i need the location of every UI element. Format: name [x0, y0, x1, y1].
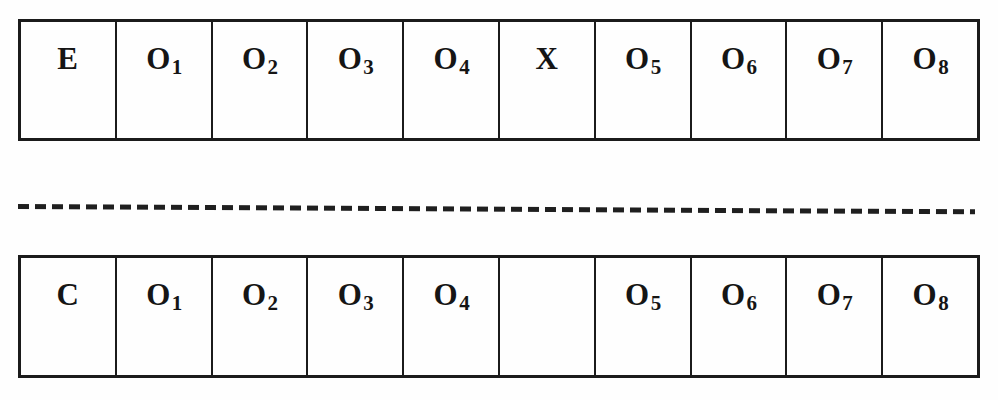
cell: C [21, 258, 117, 375]
cell: O8 [883, 258, 977, 375]
cell-label-subscript: 3 [363, 291, 374, 315]
cell-label: O2 [242, 43, 277, 74]
cell: O1 [117, 22, 213, 138]
cell: O3 [308, 258, 404, 375]
cell-label: O5 [625, 279, 660, 310]
cell: O6 [692, 22, 788, 138]
dashed-divider [18, 204, 975, 214]
cell: O8 [883, 22, 977, 138]
cell-label: O4 [434, 279, 469, 310]
cell-label-subscript: 2 [268, 55, 279, 79]
control-group-row: CO1O2O3O4O5O6O7O8 [18, 255, 980, 378]
cell-label-subscript: 7 [842, 291, 853, 315]
cell: O4 [404, 22, 500, 138]
cell-label: C [56, 279, 79, 310]
cell: O2 [213, 22, 309, 138]
cell-label-subscript: 1 [172, 291, 183, 315]
cell-label: O8 [913, 279, 948, 310]
cell-label-subscript: 8 [938, 291, 949, 315]
cell-label: O2 [242, 279, 277, 310]
cell: X [500, 22, 596, 138]
cell-label-subscript: 6 [747, 55, 758, 79]
cell: E [21, 22, 117, 138]
cell-label-subscript: 8 [938, 55, 949, 79]
cell: O2 [213, 258, 309, 375]
cell-label: O1 [146, 43, 181, 74]
cell: O1 [117, 258, 213, 375]
cell-label: E [57, 43, 78, 74]
cell-label-subscript: 7 [842, 55, 853, 79]
cell: O5 [596, 22, 692, 138]
cell-label: O5 [625, 43, 660, 74]
cell: O5 [596, 258, 692, 375]
cell-label: O1 [146, 279, 181, 310]
cell-label-subscript: 3 [363, 55, 374, 79]
cell-label: X [535, 43, 558, 74]
cell-label: O3 [338, 43, 373, 74]
cell-label-subscript: 4 [459, 55, 470, 79]
cell-label: O8 [913, 43, 948, 74]
cell: O4 [404, 258, 500, 375]
cell: O7 [787, 22, 883, 138]
cell-label: O7 [817, 279, 852, 310]
cell: O6 [692, 258, 788, 375]
cell: O7 [787, 258, 883, 375]
cell: O3 [308, 22, 404, 138]
cell-label-subscript: 5 [651, 55, 662, 79]
cell-label: O6 [721, 43, 756, 74]
cell-label-subscript: 5 [651, 291, 662, 315]
cell-label-subscript: 2 [268, 291, 279, 315]
cell-empty [500, 258, 596, 375]
cell-label-subscript: 1 [172, 55, 183, 79]
cell-label: O4 [434, 43, 469, 74]
cell-label-subscript: 6 [747, 291, 758, 315]
cell-label-subscript: 4 [459, 291, 470, 315]
cell-label: O3 [338, 279, 373, 310]
cell-label: O7 [817, 43, 852, 74]
diagram-canvas: EO1O2O3O4XO5O6O7O8 CO1O2O3O4O5O6O7O8 [0, 0, 998, 400]
cell-label: O6 [721, 279, 756, 310]
experimental-group-row: EO1O2O3O4XO5O6O7O8 [18, 19, 980, 141]
